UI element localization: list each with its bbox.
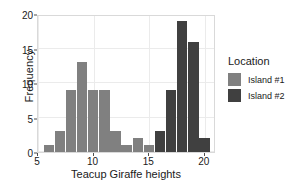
legend: Location Island #1Island #2 (228, 55, 303, 105)
x-tick-mark (204, 153, 205, 156)
x-tick-label: 10 (87, 156, 98, 167)
x-tick-mark (37, 153, 38, 156)
legend-item[interactable]: Island #1 (228, 73, 303, 86)
legend-swatch-icon (228, 73, 241, 86)
x-tick-label: 5 (34, 156, 40, 167)
legend-item-label: Island #2 (248, 91, 285, 101)
legend-entries: Island #1Island #2 (228, 73, 303, 102)
x-tick-mark (148, 153, 149, 156)
x-axis-label: Teacup Giraffe heights (37, 168, 215, 180)
legend-swatch-icon (228, 89, 241, 102)
legend-title: Location (228, 55, 303, 67)
x-tick-mark (93, 153, 94, 156)
x-tick-label: 20 (198, 156, 209, 167)
histogram-figure: Frequency 05101520 5101520 Teacup Giraff… (0, 0, 303, 190)
legend-item-label: Island #1 (248, 75, 285, 85)
legend-item[interactable]: Island #2 (228, 89, 303, 102)
x-tick-label: 15 (143, 156, 154, 167)
